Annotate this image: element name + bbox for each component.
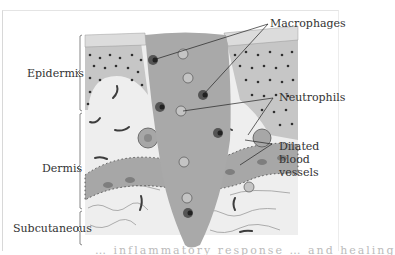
callout-macrophages: Macrophages [270,17,346,30]
label-epidermis: Epidermis [27,67,84,80]
vessel-cross-section-right [253,129,271,147]
label-dermis: Dermis [42,162,82,175]
figure-caption-partial: … inflammatory response … and healing [95,244,395,255]
stratum-corneum-left [85,33,146,47]
callout-dilated-blood-vessels: Dilated blood vessels [279,140,319,179]
callout-neutrophils: Neutrophils [279,91,345,104]
label-subcutaneous: Subcutaneous [13,222,92,235]
